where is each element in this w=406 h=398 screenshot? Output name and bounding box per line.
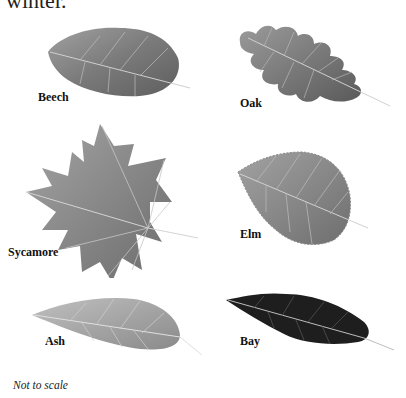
ash-leaf-illustration [30, 295, 205, 363]
ash-label: Ash [45, 334, 65, 349]
beech-label: Beech [38, 90, 69, 105]
page-heading-fragment: winter. [6, 0, 67, 14]
scale-note: Not to scale [13, 379, 68, 391]
sycamore-label: Sycamore [8, 245, 58, 260]
elm-label: Elm [240, 227, 261, 242]
bay-label: Bay [240, 334, 260, 349]
oak-label: Oak [240, 96, 262, 111]
